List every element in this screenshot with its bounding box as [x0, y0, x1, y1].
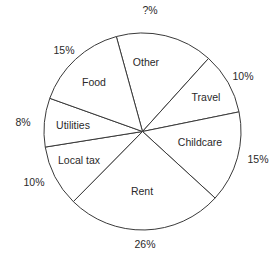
pie-chart: OtherTravelChildcareRentLocal taxUtiliti… [0, 0, 280, 261]
pct-label-utilities: 8% [15, 116, 30, 128]
slice-label-rent: Rent [131, 185, 153, 197]
pct-label-local-tax: 10% [23, 176, 44, 188]
pct-label-other: ?% [142, 4, 157, 16]
slice-label-travel: Travel [192, 91, 221, 103]
slice-label-local-tax: Local tax [58, 154, 101, 166]
pct-label-rent: 26% [134, 238, 155, 250]
pct-label-childcare: 15% [247, 153, 268, 165]
pct-label-food: 15% [53, 44, 74, 56]
slice-label-other: Other [133, 56, 160, 68]
slice-label-food: Food [82, 76, 106, 88]
slice-label-childcare: Childcare [178, 136, 223, 148]
slice-label-utilities: Utilities [56, 119, 90, 131]
pct-label-travel: 10% [232, 70, 253, 82]
